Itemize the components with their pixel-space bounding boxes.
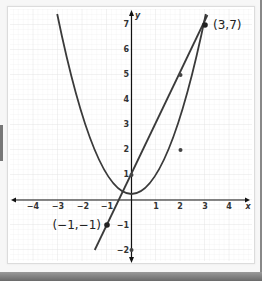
y-tick-label: −2 (117, 246, 129, 255)
y-tick-label: 4 (123, 95, 129, 104)
point-label-neg1-neg1: (−1,−1) (52, 218, 101, 232)
intersection-point (104, 222, 110, 228)
y-tick-label: 3 (123, 120, 129, 129)
y-axis-label: y (135, 11, 141, 20)
x-tick-label: 2 (177, 202, 183, 211)
y-tick-label: 5 (123, 70, 129, 79)
data-point (179, 148, 183, 152)
x-tick-label: 3 (202, 202, 208, 211)
y-tick-label: 7 (123, 20, 129, 29)
data-point (130, 173, 134, 177)
data-point (179, 73, 183, 77)
y-tick-label: 2 (123, 145, 129, 154)
x-tick-label: −1 (101, 202, 114, 211)
x-tick-label: −4 (27, 202, 40, 211)
y-tick-label: 6 (123, 45, 129, 54)
x-tick-label: 1 (153, 202, 159, 211)
y-tick-label: −1 (117, 221, 130, 230)
graph: −4 −3 −2 −1 1 2 3 4 x 7 6 5 4 3 2 1 −1 −… (0, 0, 262, 281)
x-tick-label: −3 (52, 202, 64, 211)
x-axis-label: x (244, 202, 251, 211)
x-tick-label: 4 (226, 202, 232, 211)
data-point (130, 248, 134, 252)
x-tick-label: −2 (77, 202, 89, 211)
intersection-point (202, 22, 208, 28)
point-label-3-7: (3,7) (213, 18, 241, 32)
